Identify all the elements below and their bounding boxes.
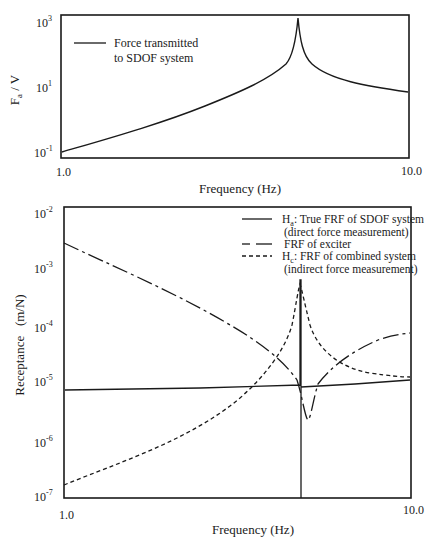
bottom-ytick-1e-7: 10-7 — [34, 488, 53, 504]
bottom-ytick-1e-4: 10-4 — [34, 319, 53, 335]
bottom-ytick-1e-3: 10-3 — [34, 260, 53, 276]
bottom-x-axis-label: Frequency (Hz) — [212, 522, 294, 537]
bottom-y-axis-label: Receptance (m/N) — [12, 294, 27, 395]
top-y-axis-label: Fa / V — [7, 74, 24, 105]
top-legend-label-line2: to SDOF system — [114, 51, 194, 65]
top-x-axis-label: Frequency (Hz) — [199, 181, 281, 196]
figure: 103 101 10-1 Fa / V 1.0 10.0 Frequency (… — [0, 0, 434, 542]
bottom-legend: Ha: True FRF of SDOF system (direct forc… — [242, 213, 424, 276]
bottom-ytick-1e-6: 10-6 — [34, 434, 53, 450]
bottom-ytick-1e-2: 10-2 — [34, 205, 53, 221]
bottom-xtick-1: 1.0 — [59, 508, 74, 522]
top-ytick-0.1: 10-1 — [34, 144, 53, 160]
top-chart: 103 101 10-1 Fa / V 1.0 10.0 Frequency (… — [7, 14, 422, 196]
top-ytick-10: 101 — [36, 79, 52, 95]
legend-hc-note: (indirect force measurement) — [284, 263, 418, 276]
top-legend-label-line1: Force transmitted — [114, 36, 198, 50]
combined-frf-curve — [64, 284, 410, 485]
top-xtick-1: 1.0 — [56, 165, 71, 179]
top-xtick-10: 10.0 — [401, 164, 422, 178]
true-frf-curve — [65, 280, 410, 498]
legend-exciter-label: FRF of exciter — [284, 238, 351, 250]
bottom-xtick-10: 10.0 — [403, 503, 424, 517]
bottom-chart: 10-2 10-3 10-4 10-5 10-6 10-7 Receptance… — [12, 205, 424, 537]
bottom-ytick-1e-5: 10-5 — [34, 373, 53, 389]
top-ytick-1000: 103 — [36, 14, 52, 30]
